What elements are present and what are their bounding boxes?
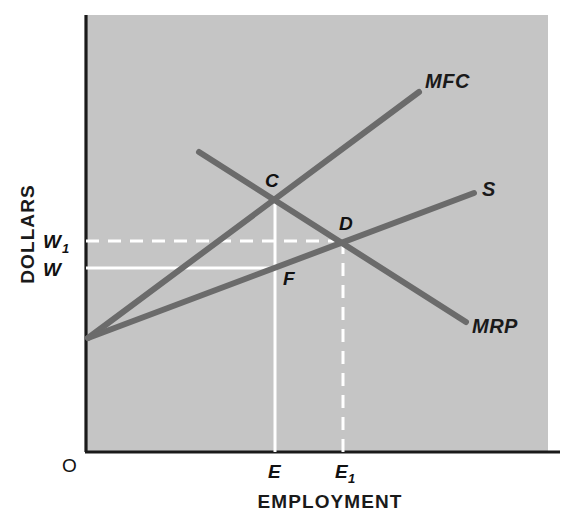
point-label-d: D	[339, 213, 353, 234]
curve-label-mrp: MRP	[472, 315, 518, 337]
y-tick-label-w1: W	[43, 231, 63, 252]
curve-label-s: S	[482, 178, 496, 200]
origin-label: O	[62, 455, 77, 476]
x-tick-label-e1: E	[335, 461, 349, 482]
x-axis-title: EMPLOYMENT	[257, 491, 402, 512]
economics-diagram: MFC S MRP C D F W 1 W E E 1 O DOLLARS EM…	[0, 0, 572, 521]
curve-label-mfc: MFC	[425, 70, 470, 92]
x-tick-label-e1-subscript: 1	[348, 471, 355, 486]
point-label-c: C	[265, 170, 279, 191]
halftone-texture	[86, 15, 548, 452]
point-label-f: F	[283, 268, 296, 289]
y-tick-label-w1-subscript: 1	[62, 241, 69, 256]
y-tick-label-w: W	[43, 259, 63, 280]
x-tick-label-e: E	[268, 461, 282, 482]
y-axis-title: DOLLARS	[17, 184, 38, 284]
monopsony-labor-market-chart: MFC S MRP C D F W 1 W E E 1 O DOLLARS EM…	[0, 0, 572, 521]
